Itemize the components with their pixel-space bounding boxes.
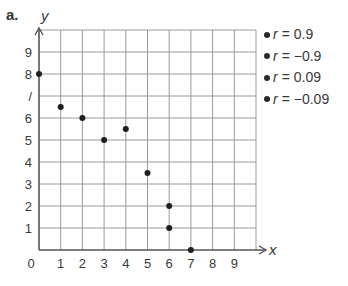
data-point <box>166 225 172 231</box>
legend-item-option-1[interactable]: r = 0.9 <box>264 24 329 46</box>
x-tick-label: 2 <box>79 256 86 271</box>
tick-labels: 0123456789123456/89 <box>25 45 238 271</box>
x-axis-label: x <box>268 241 277 258</box>
y-tick-label: 8 <box>25 67 32 82</box>
x-tick-label: 4 <box>122 256 129 271</box>
bullet-icon <box>264 75 270 81</box>
legend-item-option-4[interactable]: r = −0.09 <box>264 89 329 111</box>
x-tick-label: 6 <box>166 256 173 271</box>
bullet-icon <box>264 53 270 59</box>
data-point <box>145 170 151 176</box>
bullet-icon <box>264 96 270 102</box>
x-tick-label: 7 <box>187 256 194 271</box>
y-tick-label: / <box>28 89 32 104</box>
x-tick-label: 0 <box>27 256 34 271</box>
y-tick-label: 1 <box>25 221 32 236</box>
bullet-icon <box>264 32 270 38</box>
data-point <box>188 247 194 253</box>
axes: yx <box>35 7 277 258</box>
data-point <box>58 104 64 110</box>
y-tick-label: 9 <box>25 45 32 60</box>
x-tick-label: 9 <box>231 256 238 271</box>
x-tick-label: 1 <box>57 256 64 271</box>
y-tick-label: 3 <box>25 177 32 192</box>
data-point <box>79 115 85 121</box>
grid-lines <box>39 30 256 250</box>
y-tick-label: 6 <box>25 111 32 126</box>
data-point <box>123 126 129 132</box>
x-tick-label: 3 <box>100 256 107 271</box>
data-point <box>166 203 172 209</box>
data-point <box>101 137 107 143</box>
y-tick-label: 5 <box>25 133 32 148</box>
y-axis-label: y <box>40 7 50 24</box>
y-tick-label: 2 <box>25 199 32 214</box>
legend-item-option-2[interactable]: r = −0.9 <box>264 46 329 68</box>
data-point <box>36 71 42 77</box>
legend-item-option-3[interactable]: r = 0.09 <box>264 67 329 89</box>
legend: r = 0.9 r = −0.9 r = 0.09 r = −0.09 <box>264 24 329 110</box>
x-tick-label: 8 <box>209 256 216 271</box>
x-tick-label: 5 <box>144 256 151 271</box>
y-tick-label: 4 <box>25 155 32 170</box>
